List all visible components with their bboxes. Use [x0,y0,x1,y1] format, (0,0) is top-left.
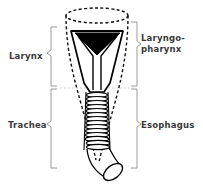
label-larynx: Larynx [9,51,43,62]
label-trachea: Trachea [8,120,47,131]
bracket-esophagus [131,89,141,168]
label-laryngopharynx-line1: Laryngo- [141,33,185,43]
label-laryngopharynx: Laryngo-pharynx [141,33,185,54]
diagram-page: Larynx Trachea Laryngo-pharynx Esophagus [0,0,203,189]
trachea-distal-bend [87,148,126,184]
bracket-laryngopharynx [131,22,141,86]
larynx-funnel [71,31,123,92]
trachea-rings [84,92,110,150]
bracket-larynx [47,27,57,86]
label-laryngopharynx-line2: pharynx [141,44,182,54]
label-esophagus: Esophagus [141,120,195,131]
bracket-trachea [47,89,57,168]
anatomy-figure [0,0,203,189]
